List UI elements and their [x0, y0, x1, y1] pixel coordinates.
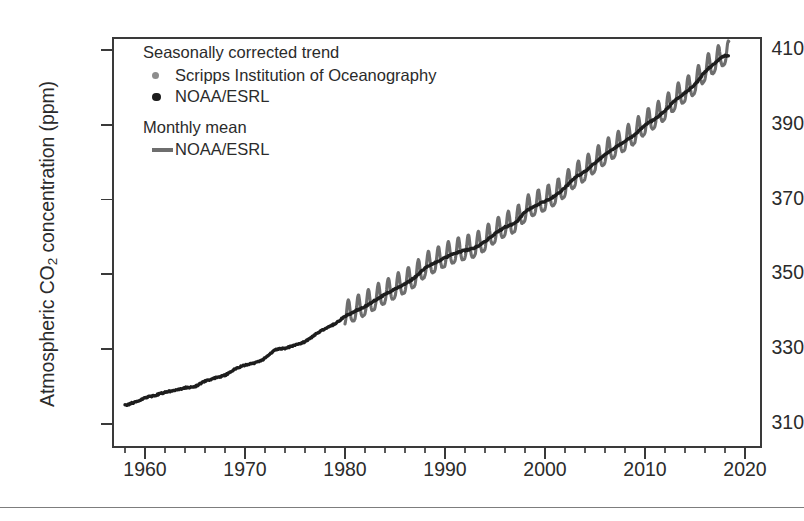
y-axis-title-tail: concentration (ppm) — [36, 81, 58, 258]
x-axis-tick-label: 1960 — [95, 458, 195, 481]
legend-entry-label: NOAA/ESRL — [174, 86, 269, 108]
chart-legend: Seasonally corrected trendScripps Instit… — [143, 42, 436, 161]
legend-dot-swatch-icon — [152, 93, 174, 102]
x-axis-minor-tick — [164, 448, 165, 453]
y-axis-tick — [101, 348, 112, 350]
x-axis-minor-tick — [484, 448, 485, 453]
x-axis-minor-tick — [264, 448, 265, 453]
x-axis-tick-label: 1980 — [295, 458, 395, 481]
x-axis-minor-tick — [324, 448, 325, 453]
y-axis-tick — [101, 124, 112, 126]
legend-entry-label: NOAA/ESRL — [174, 139, 269, 161]
x-axis-minor-tick — [524, 448, 525, 453]
x-axis-minor-tick — [624, 448, 625, 453]
x-axis-minor-tick — [504, 448, 505, 453]
x-axis-minor-tick — [704, 448, 705, 453]
legend-entry-label: Scripps Institution of Oceanography — [174, 65, 436, 87]
legend-group-heading: Seasonally corrected trend — [143, 42, 436, 64]
x-axis-minor-tick — [124, 448, 125, 453]
x-axis-minor-tick — [664, 448, 665, 453]
legend-group: Seasonally corrected trendScripps Instit… — [143, 42, 436, 108]
x-axis-minor-tick — [464, 448, 465, 453]
y-axis-tick — [101, 49, 112, 51]
x-axis-minor-tick — [684, 448, 685, 453]
page-separator-rule — [0, 507, 804, 508]
circle-marker-icon — [152, 72, 159, 79]
x-axis-tick-label: 2000 — [495, 458, 595, 481]
x-axis-minor-tick — [384, 448, 385, 453]
legend-entry[interactable]: Scripps Institution of Oceanography — [143, 65, 436, 87]
circle-marker-icon — [152, 93, 161, 102]
x-axis-minor-tick — [584, 448, 585, 453]
y-axis-tick — [101, 199, 112, 201]
legend-dot-swatch-icon — [152, 72, 174, 79]
x-axis-tick-label: 1970 — [195, 458, 295, 481]
y-axis-title: Atmospheric CO2 concentration (ppm) — [36, 34, 60, 454]
x-axis-tick-label: 2010 — [595, 458, 695, 481]
y-axis-tick — [101, 423, 112, 425]
x-axis-minor-tick — [204, 448, 205, 453]
x-axis-tick-label: 1990 — [395, 458, 495, 481]
x-axis-minor-tick — [364, 448, 365, 453]
x-axis-minor-tick — [304, 448, 305, 453]
legend-entry[interactable]: NOAA/ESRL — [143, 139, 436, 161]
x-axis-minor-tick — [424, 448, 425, 453]
x-axis-minor-tick — [284, 448, 285, 453]
x-axis-minor-tick — [724, 448, 725, 453]
x-axis-tick-label: 2020 — [695, 458, 795, 481]
co2-concentration-chart: Atmospheric CO2 concentration (ppm) 3103… — [0, 0, 804, 521]
legend-entry[interactable]: NOAA/ESRL — [143, 86, 436, 108]
x-axis-minor-tick — [404, 448, 405, 453]
x-axis-minor-tick — [564, 448, 565, 453]
y-axis-title-main: Atmospheric CO — [36, 265, 58, 407]
x-axis-minor-tick — [604, 448, 605, 453]
x-axis-minor-tick — [184, 448, 185, 453]
y-axis-title-subscript: 2 — [45, 258, 60, 265]
x-axis-minor-tick — [224, 448, 225, 453]
y-axis-tick — [101, 273, 112, 275]
legend-group-heading: Monthly mean — [143, 117, 436, 139]
legend-line-swatch-icon — [152, 148, 174, 152]
line-swatch-icon — [152, 148, 173, 152]
legend-group: Monthly meanNOAA/ESRL — [143, 117, 436, 161]
